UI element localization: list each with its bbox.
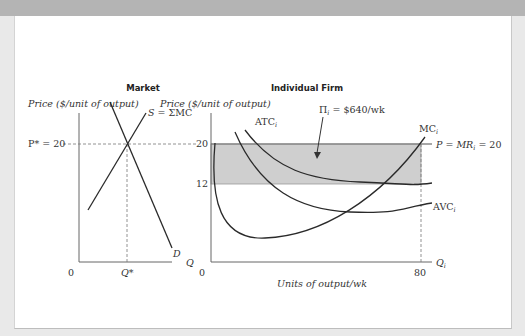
price-line-label-b: = 20 [475,139,501,150]
supply-label: S = ΣMC [148,107,192,118]
avc-label: AVCi [432,201,456,214]
firm-origin-label: 0 [199,267,205,278]
mc-label-text: MC [419,123,436,134]
firm-title: Individual Firm [271,83,343,93]
price-line-label-a: P = MR [435,139,473,150]
avc-label-sub: i [454,206,456,214]
profit-label: Πi = $640/wk [319,104,385,117]
p-star-label: P* = 20 [28,138,65,149]
mc-label-sub: i [436,128,438,136]
atc-label: ATCi [254,116,277,129]
firm-q-label-text: Q [436,257,444,268]
market-origin-label: 0 [68,267,74,278]
mc-label: MCi [419,123,438,136]
profit-label-text: = $640/wk [329,104,385,115]
firm-tick-20: 20 [196,138,208,149]
avc-label-text: AVC [432,201,454,212]
q-star-label: Q* [121,267,134,278]
market-title: Market [126,83,160,93]
supply-label-text: = ΣMC [155,107,193,118]
price-line-label: P = MRi = 20 [435,139,501,152]
firm-q-label-sub: i [444,262,446,270]
market-q-label: Q [186,257,194,268]
demand-curve [110,102,172,248]
atc-label-text: ATC [254,116,275,127]
market-y-label: Price ($/unit of output) [27,98,139,109]
figure-svg: Market Individual Firm Price ($/unit of … [0,0,525,336]
firm-tick-12: 12 [196,178,208,189]
atc-label-sub: i [275,121,277,129]
profit-label-symbol: Π [319,104,327,115]
supply-curve [88,113,146,210]
firm-q-label: Qi [436,257,446,270]
demand-label: D [172,248,181,259]
firm-tick-80: 80 [414,267,426,278]
firm-x-label: Units of output/wk [277,278,367,289]
